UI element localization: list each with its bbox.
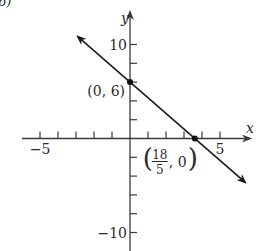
x-tick-label: −5 bbox=[30, 141, 51, 157]
fraction-denominator: 5 bbox=[156, 163, 164, 177]
paren-close: ) bbox=[188, 143, 198, 173]
point-label: (185, 0) bbox=[143, 143, 198, 177]
data-point bbox=[127, 79, 133, 85]
data-point bbox=[192, 136, 198, 142]
chart-svg: b) −5510−10 (0, 6)(185, 0) y x bbox=[0, 0, 263, 251]
axes bbox=[22, 12, 250, 251]
y-tick-label: 10 bbox=[109, 37, 127, 53]
y-axis-label: y bbox=[120, 10, 130, 26]
y-tick-label: −10 bbox=[97, 225, 127, 241]
label-tail: , 0 bbox=[169, 154, 187, 170]
panel-label: b) bbox=[0, 0, 11, 9]
x-axis-label: x bbox=[246, 120, 254, 136]
point-label: (0, 6) bbox=[87, 83, 125, 99]
x-tick-label: 5 bbox=[216, 141, 225, 157]
fraction-numerator: 18 bbox=[152, 148, 167, 162]
